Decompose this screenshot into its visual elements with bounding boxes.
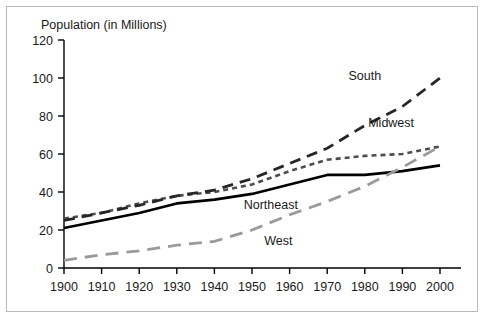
y-tick-label-40: 40 xyxy=(39,186,53,200)
x-axis-tick-labels: 1900 1910 1920 1930 1940 1950 1960 1970 … xyxy=(50,280,454,294)
series-label-midwest: Midwest xyxy=(368,116,414,130)
x-axis-ticks xyxy=(64,268,440,274)
y-axis-tick-labels: 120 100 80 60 40 20 0 xyxy=(32,34,53,276)
x-tick-label-1940: 1940 xyxy=(200,280,228,294)
x-tick-label-1980: 1980 xyxy=(351,280,379,294)
x-tick-label-1920: 1920 xyxy=(125,280,153,294)
x-tick-label-1960: 1960 xyxy=(276,280,304,294)
x-tick-label-1950: 1950 xyxy=(238,280,266,294)
y-tick-label-0: 0 xyxy=(46,262,53,276)
x-tick-label-1990: 1990 xyxy=(388,280,416,294)
x-tick-label-1930: 1930 xyxy=(163,280,191,294)
y-axis-ticks xyxy=(58,40,64,268)
series-lines-group xyxy=(64,78,440,260)
chart-figure: Population (in Millions) 120 100 80 60 4… xyxy=(0,0,484,318)
series-label-west: West xyxy=(264,234,293,248)
y-tick-label-120: 120 xyxy=(32,34,53,48)
x-tick-label-1900: 1900 xyxy=(50,280,78,294)
series-line-northeast xyxy=(64,165,440,228)
population-line-chart: Population (in Millions) 120 100 80 60 4… xyxy=(0,0,484,318)
x-axis: 1900 1910 1920 1930 1940 1950 1960 1970 … xyxy=(50,268,461,294)
y-axis: 120 100 80 60 40 20 0 xyxy=(32,34,64,276)
x-tick-label-1910: 1910 xyxy=(88,280,116,294)
y-tick-label-80: 80 xyxy=(39,110,53,124)
y-tick-label-100: 100 xyxy=(32,72,53,86)
series-label-south: South xyxy=(348,69,381,83)
y-tick-label-20: 20 xyxy=(39,224,53,238)
x-tick-label-1970: 1970 xyxy=(313,280,341,294)
y-tick-label-60: 60 xyxy=(39,148,53,162)
chart-title-group: Population (in Millions) xyxy=(41,18,167,32)
x-tick-label-2000: 2000 xyxy=(426,280,454,294)
chart-title: Population (in Millions) xyxy=(41,18,167,32)
series-label-northeast: Northeast xyxy=(244,198,299,212)
